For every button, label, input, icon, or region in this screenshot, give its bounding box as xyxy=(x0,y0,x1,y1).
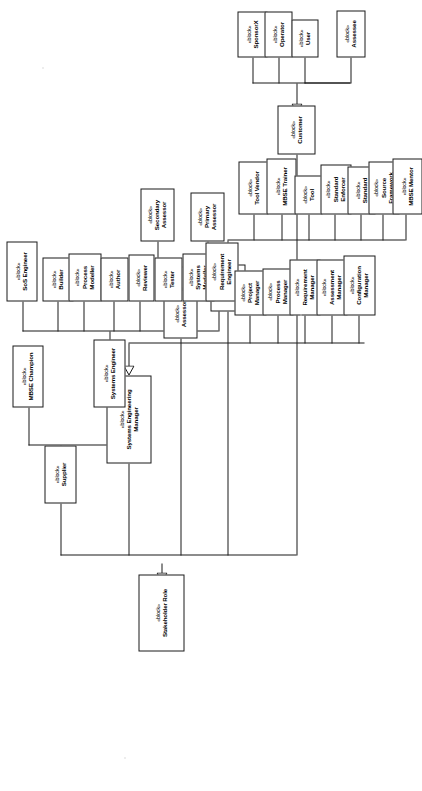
block-name: MBSE Champion xyxy=(27,352,34,400)
block-stereotype: «block» xyxy=(325,180,331,198)
customer-to-assessee xyxy=(350,57,351,83)
customer-out xyxy=(296,83,297,105)
block-stereotype: «block» xyxy=(294,278,300,296)
external-bus-up xyxy=(227,239,253,240)
block-name: Standard xyxy=(361,177,368,203)
block-stereotype: «block» xyxy=(267,283,273,301)
block-name-line2: Enforcer xyxy=(339,177,346,201)
block-operator[interactable]: «block» Operator xyxy=(264,11,292,57)
block-stereotype: «block» xyxy=(401,177,407,195)
block-systems-engineer[interactable]: «block» Systems Engineer xyxy=(93,339,125,407)
block-name: Systems Engineer xyxy=(109,347,116,398)
block-name: Assessor xyxy=(180,300,187,327)
block-name: Supplier xyxy=(60,462,67,486)
block-name-line2: Assessor xyxy=(160,201,167,228)
scan-speck xyxy=(300,314,302,316)
external-to-mbse-trainer xyxy=(281,214,282,240)
block-name: MBSE Trainer xyxy=(281,167,288,205)
block-stereotype: «block» xyxy=(103,364,109,382)
block-name-line2: Manager xyxy=(308,275,315,299)
sem-bus-up xyxy=(128,342,249,343)
block-stereotype: «block» xyxy=(174,305,180,323)
block-secondary-assessor[interactable]: «block» Secondary Assessor xyxy=(140,188,174,241)
block-primary-assessor[interactable]: «block» Primary Assessor xyxy=(190,192,224,241)
block-name-line2: Manager xyxy=(253,280,260,304)
block-mbse-champion[interactable]: «block» MBSE Champion xyxy=(12,345,43,407)
block-process-modeller[interactable]: «block» Process Modeller xyxy=(68,253,101,301)
block-user[interactable]: «block» User xyxy=(291,19,318,57)
customer-bus-lower xyxy=(304,82,350,83)
block-name-line2: Manager xyxy=(362,273,369,297)
block-stereotype: «block» xyxy=(246,25,252,43)
sem-to-assessment-manager xyxy=(331,315,332,343)
branch-to-external xyxy=(227,311,228,555)
block-name: Systems Engineering Manager xyxy=(125,377,138,461)
block-standard-enforcer[interactable]: «block» Standard Enforcer xyxy=(320,164,351,214)
branch-to-sem xyxy=(128,463,129,555)
block-assessee[interactable]: «block» Assessee xyxy=(336,10,365,57)
block-tool[interactable]: «block» Tool xyxy=(294,175,322,214)
block-assessment-manager[interactable]: «block» Assessment Manager xyxy=(316,259,347,315)
block-name-line2: Engineer xyxy=(225,259,232,284)
block-sos-engineer[interactable]: «block» SoS Engineer xyxy=(6,241,37,301)
block-author[interactable]: «block» Author xyxy=(100,257,128,301)
block-sponsorx[interactable]: «block» SponsorX xyxy=(237,11,267,57)
block-tester[interactable]: «block» Tester xyxy=(154,257,182,301)
block-requirement-manager[interactable]: «block» Requirement Manager xyxy=(289,259,320,315)
sem-to-configuration-manager xyxy=(358,315,359,343)
block-name-line2: Modeller xyxy=(88,265,95,289)
branch-to-assessor xyxy=(180,338,181,555)
external-to-mbse-mentor xyxy=(405,214,406,240)
external-to-standard xyxy=(360,214,361,240)
block-name: Customer xyxy=(296,116,303,144)
block-mbse-trainer[interactable]: «block» MBSE Trainer xyxy=(266,158,296,214)
block-stereotype: «block» xyxy=(162,270,168,288)
block-stereotype: «block» xyxy=(155,604,161,622)
se-to-process-modeller xyxy=(83,301,84,331)
se-to-builder xyxy=(57,301,58,331)
external-to-tool xyxy=(308,214,309,240)
block-name: Author xyxy=(114,269,121,288)
block-stereotype: «block» xyxy=(275,177,281,195)
block-reviewer[interactable]: «block» Reviewer xyxy=(128,254,154,301)
block-requirement-engineer[interactable]: «block» Requirement Engineer xyxy=(205,242,238,301)
block-name: Assessee xyxy=(350,20,357,47)
block-name: User xyxy=(304,31,311,44)
block-name: Builder xyxy=(57,269,64,289)
block-name-line2: Manager xyxy=(281,279,288,303)
block-configuration-manager[interactable]: «block» Configuration Manager xyxy=(343,255,375,315)
block-stereotype: «block» xyxy=(355,181,361,199)
block-stereotype: «block» xyxy=(321,278,327,296)
block-name-line2: Assessor xyxy=(210,203,217,230)
block-stereotype: «block» xyxy=(272,25,278,43)
block-stereotype: «block» xyxy=(74,268,80,286)
customer-to-sponsorx xyxy=(252,57,253,83)
se-to-reviewer xyxy=(139,301,140,331)
block-project-manager[interactable]: «block» Project Manager xyxy=(234,270,266,315)
sem-to-process-manager xyxy=(277,315,278,343)
block-name: Stakeholder Role xyxy=(161,588,168,636)
block-name: SponsorX xyxy=(252,20,259,48)
se-to-author xyxy=(113,301,114,331)
sem-to-project-manager xyxy=(249,315,250,343)
supplier-to-mbse-champion xyxy=(28,407,29,445)
scan-speck xyxy=(124,757,126,759)
block-supplier[interactable]: «block» Supplier xyxy=(44,445,76,503)
block-name: Tool Vendor xyxy=(253,171,260,205)
block-name: Tool xyxy=(308,189,315,201)
block-tool-vendor[interactable]: «block» Tool Vendor xyxy=(238,161,268,214)
external-to-source-framework xyxy=(382,214,383,240)
external-to-standard-enforcer xyxy=(334,214,335,240)
block-name: Tester xyxy=(168,270,175,287)
trunk-main-vertical xyxy=(60,554,296,555)
block-mbse-mentor[interactable]: «block» MBSE Mentor xyxy=(392,158,422,214)
customer-to-user xyxy=(304,57,305,83)
sem-out xyxy=(128,343,129,367)
block-stereotype: «block» xyxy=(108,270,114,288)
block-customer[interactable]: «block» Customer xyxy=(277,105,315,154)
block-stakeholder-role[interactable]: «block» Stakeholder Role xyxy=(138,574,184,651)
block-process-manager[interactable]: «block» Process Manager xyxy=(262,268,293,315)
sem-children-bus xyxy=(249,342,364,343)
block-stereotype: «block» xyxy=(302,186,308,204)
